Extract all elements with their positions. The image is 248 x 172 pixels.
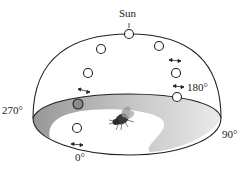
sun-label: Sun bbox=[119, 8, 136, 19]
sun-position-circle bbox=[97, 45, 106, 54]
dome-svg bbox=[0, 0, 248, 172]
double-arrow-icon bbox=[173, 85, 184, 89]
sun-position-circle bbox=[173, 93, 182, 102]
label-90-degrees: 90° bbox=[222, 129, 237, 140]
sun-position-circle bbox=[84, 69, 93, 78]
label-270-degrees: 270° bbox=[2, 105, 23, 116]
sun-position-circle-highlighted bbox=[73, 99, 83, 109]
double-arrow-icon bbox=[78, 88, 90, 94]
double-arrow-icon bbox=[71, 143, 83, 147]
sun-position-circle bbox=[73, 124, 82, 133]
dome-diagram: Sun 180° 270° 90° 0° bbox=[0, 0, 248, 172]
sun-position-circle bbox=[125, 30, 134, 39]
sun-position-circle bbox=[155, 42, 164, 51]
label-0-degrees: 0° bbox=[75, 152, 85, 163]
double-arrow-icon bbox=[169, 59, 181, 63]
label-180-degrees: 180° bbox=[187, 82, 208, 93]
sun-position-circle bbox=[172, 69, 181, 78]
dome-floor-shade bbox=[33, 94, 221, 152]
